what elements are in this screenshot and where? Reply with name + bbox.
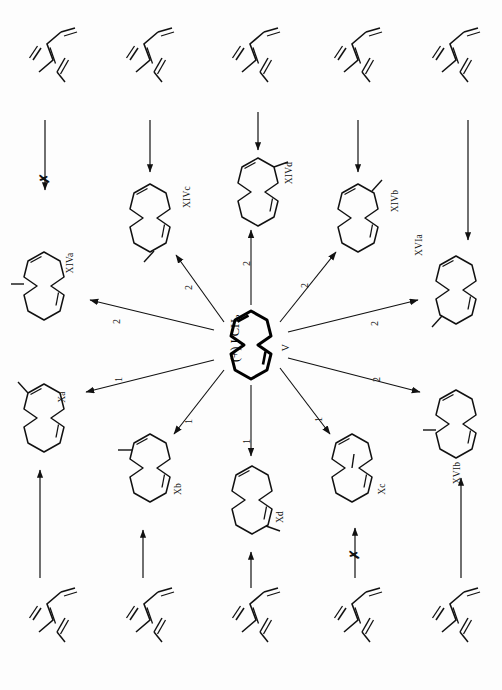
arrow-V-to-Xb	[174, 370, 224, 434]
structure-Xc	[332, 434, 372, 502]
label-XIVc: XIVc	[182, 186, 192, 208]
edge-label-XVIb: 2	[371, 377, 382, 382]
edge-label-XIVa: 2	[111, 319, 122, 324]
edge-label-Xc: 1	[313, 417, 324, 422]
precursor-top-2	[127, 28, 175, 82]
label-XIVa: XIVa	[65, 253, 75, 274]
edge-label-XIVd: 2	[241, 261, 252, 266]
structure-XIVd	[238, 158, 288, 226]
precursor-bot-2	[127, 588, 175, 642]
arrow-V-to-XVIa	[288, 300, 418, 332]
label-Xd: Xd	[275, 511, 285, 523]
label-XIVb: XIVb	[390, 190, 400, 212]
edge-label-Xd: 1	[241, 439, 252, 444]
structure-XIVc	[130, 184, 170, 262]
edge-label-Xb: 1	[183, 419, 194, 424]
label-XIVd: XIVd	[284, 162, 294, 184]
center-formula-label: (+) I CH2	[228, 314, 245, 362]
blocked-mark-bot-4: ✗	[347, 549, 363, 560]
center-formula-subscript: 2	[234, 314, 244, 319]
structure-XVIa	[432, 256, 476, 327]
label-XVIa: XVIa	[414, 234, 424, 256]
arrow-V-to-XVIb	[288, 358, 420, 392]
structure-Xb	[118, 434, 170, 502]
precursor-top-5	[433, 28, 481, 82]
edge-label-Xa: 1	[113, 377, 124, 382]
precursor-bot-5	[433, 588, 481, 642]
precursor-bot-1	[30, 588, 78, 642]
blocked-mark-top-1: ✗	[37, 173, 53, 184]
center-roman-label: V	[280, 344, 291, 351]
structure-XVIb	[423, 390, 476, 458]
structure-XIVa	[11, 252, 64, 320]
structure-Xd	[232, 466, 280, 534]
edge-label-XIVc: 2	[183, 285, 194, 290]
precursor-bot-3	[233, 588, 281, 642]
arrow-V-to-Xc	[280, 368, 330, 434]
scheme-canvas	[0, 0, 502, 690]
label-Xb: Xb	[173, 483, 183, 495]
precursor-top-4	[335, 28, 383, 82]
label-XVIb: XVIb	[452, 462, 462, 484]
arrow-V-to-Xa	[86, 360, 214, 392]
structure-XIVb	[338, 180, 382, 252]
precursor-top-3	[233, 28, 281, 82]
edge-label-XIVb: 2	[299, 283, 310, 288]
label-Xa: Xa	[57, 391, 67, 402]
arrow-V-to-XIVa	[90, 300, 214, 330]
reaction-scheme-figure: (+) I CH2 V XIVa XIVc XIVd XIVb XVIa Xa …	[0, 0, 502, 690]
precursor-top-1	[30, 28, 78, 82]
edge-label-XVIa: 2	[369, 321, 380, 326]
label-Xc: Xc	[377, 483, 387, 494]
precursor-bot-4	[335, 588, 383, 642]
